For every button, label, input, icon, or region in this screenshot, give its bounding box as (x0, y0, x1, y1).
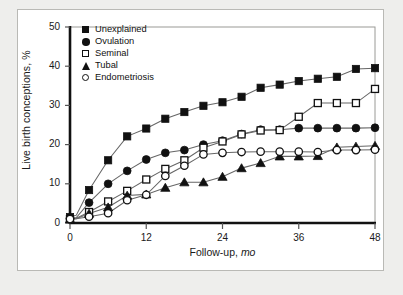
x-tick-label: 24 (208, 232, 238, 243)
legend-item-seminal: Seminal (82, 48, 154, 60)
legend-item-tubal: Tubal (82, 60, 154, 72)
filled-square-marker-icon-glyph (82, 26, 89, 33)
y-tick-label: 20 (34, 138, 60, 149)
x-tick-label: 48 (360, 232, 390, 243)
filled-triangle-marker-icon (82, 62, 94, 70)
open-square-marker-icon-glyph (82, 50, 89, 57)
legend-item-ovulation: Ovulation (82, 36, 154, 48)
y-tick-label: 10 (34, 177, 60, 188)
x-axis-title-italic: mo (241, 246, 256, 258)
legend-item-label: Ovulation (94, 36, 134, 48)
legend-item-label: Tubal (94, 60, 118, 72)
legend-item-endometriosis: Endometriosis (82, 72, 154, 84)
legend-item-label: Seminal (94, 48, 129, 60)
open-circle-marker-icon-glyph (82, 74, 89, 81)
filled-circle-marker-icon (82, 38, 94, 46)
x-tick-label: 12 (131, 232, 161, 243)
filled-circle-marker-icon-glyph (82, 38, 90, 46)
chart-legend: UnexplainedOvulationSeminalTubalEndometr… (82, 24, 154, 83)
y-tick-label: 50 (34, 21, 60, 32)
x-tick-label: 36 (284, 232, 314, 243)
open-square-marker-icon (82, 50, 94, 57)
legend-item-label: Unexplained (94, 24, 147, 36)
legend-item-unexplained: Unexplained (82, 24, 154, 36)
y-axis-title: Live birth conceptions, % (20, 25, 32, 195)
y-tick-label: 30 (34, 99, 60, 110)
filled-square-marker-icon (82, 26, 94, 33)
x-axis-title-plain: Follow-up, (190, 246, 238, 258)
y-tick-label: 0 (34, 217, 60, 228)
x-axis-title: Follow-up, mo (70, 246, 375, 258)
y-tick-label: 40 (34, 60, 60, 71)
x-tick-label: 0 (55, 232, 85, 243)
open-circle-marker-icon (82, 74, 94, 81)
legend-item-label: Endometriosis (94, 72, 154, 84)
filled-triangle-marker-icon-glyph (82, 62, 90, 70)
